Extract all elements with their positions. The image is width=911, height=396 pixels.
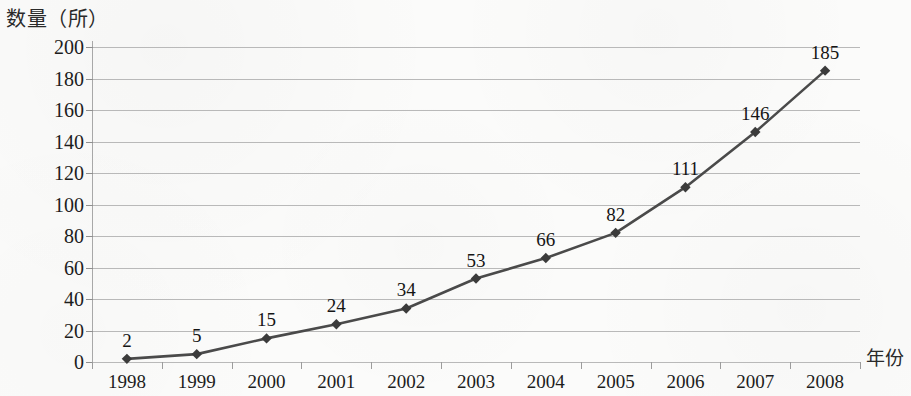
- data-point-marker: [471, 273, 481, 283]
- x-axis-tick-mark: [162, 362, 163, 369]
- data-point-label: 15: [232, 310, 302, 330]
- x-axis-tick-mark: [581, 362, 582, 369]
- data-point-marker: [261, 333, 271, 343]
- y-axis-tick-mark: [86, 205, 93, 206]
- x-axis-tick-mark: [651, 362, 652, 369]
- y-axis-tick-mark: [86, 173, 93, 174]
- data-point-label: 185: [790, 43, 860, 63]
- x-axis-tick-label: 2001: [296, 371, 376, 392]
- data-point-label: 34: [371, 280, 441, 300]
- data-point-label: 2: [92, 331, 162, 351]
- y-axis-tick-mark: [86, 142, 93, 143]
- data-point-marker: [192, 349, 202, 359]
- data-point-label: 111: [650, 159, 720, 179]
- data-point-label: 24: [301, 296, 371, 316]
- x-axis-tick-mark: [790, 362, 791, 369]
- x-axis-tick-mark: [860, 362, 861, 369]
- x-axis-tick-label: 2007: [715, 371, 795, 392]
- x-axis-tick-mark: [92, 362, 93, 369]
- y-axis-tick-mark: [86, 268, 93, 269]
- x-axis-tick-label: 1999: [157, 371, 237, 392]
- data-point-label: 53: [441, 251, 511, 271]
- data-point-label: 5: [162, 326, 232, 346]
- x-axis-tick-label: 2003: [436, 371, 516, 392]
- data-point-marker: [401, 303, 411, 313]
- y-axis-tick-mark: [86, 47, 93, 48]
- data-point-marker: [541, 253, 551, 263]
- x-axis-tick-label: 2008: [785, 371, 865, 392]
- x-axis-tick-label: 2000: [227, 371, 307, 392]
- x-axis-tick-label: 2005: [576, 371, 656, 392]
- data-point-label: 82: [581, 205, 651, 225]
- x-axis-tick-label: 2004: [506, 371, 586, 392]
- x-axis-tick-mark: [720, 362, 721, 369]
- y-axis-tick-mark: [86, 79, 93, 80]
- x-axis-tick-mark: [371, 362, 372, 369]
- y-axis-tick-mark: [86, 236, 93, 237]
- x-axis-tick-label: 2002: [366, 371, 446, 392]
- data-point-marker: [331, 319, 341, 329]
- data-point-label: 146: [720, 104, 790, 124]
- data-point-marker: [122, 354, 132, 364]
- x-axis-tick-label: 2006: [645, 371, 725, 392]
- x-axis-tick-mark: [232, 362, 233, 369]
- y-axis-tick-mark: [86, 299, 93, 300]
- x-axis-tick-mark: [301, 362, 302, 369]
- x-axis-tick-mark: [511, 362, 512, 369]
- x-axis-tick-mark: [441, 362, 442, 369]
- x-axis-tick-label: 1998: [87, 371, 167, 392]
- data-point-label: 66: [511, 230, 581, 250]
- chart-figure: 数量（所） 年份 200180160140120100806040200 199…: [0, 0, 911, 396]
- y-axis-tick-mark: [86, 110, 93, 111]
